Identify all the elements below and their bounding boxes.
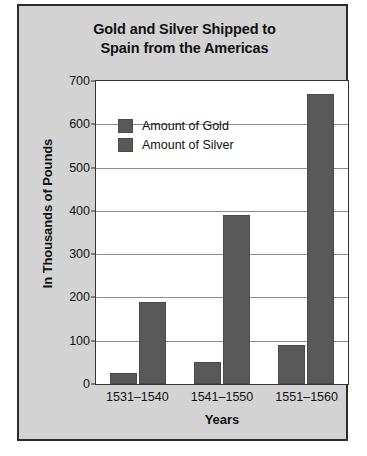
legend-label-silver: Amount of Silver	[142, 138, 234, 152]
x-axis-tick-labels: 1531–15401541–15501551–1560	[95, 390, 349, 408]
bar-group	[264, 81, 348, 384]
chart-title: Gold and Silver Shipped to Spain from th…	[49, 20, 320, 57]
bar	[194, 362, 221, 384]
legend-label-gold: Amount of Gold	[142, 119, 229, 133]
y-tick-label: 400	[69, 204, 90, 218]
bar	[278, 345, 305, 384]
y-tick-label: 600	[69, 117, 90, 131]
x-tick-label: 1531–1540	[106, 390, 169, 404]
legend-swatch-silver	[118, 138, 133, 152]
x-tick-label: 1541–1550	[191, 390, 254, 404]
legend-item-gold: Amount of Gold	[118, 119, 234, 133]
x-tick-label: 1551–1560	[275, 390, 338, 404]
y-axis-title: In Thousands of Pounds	[40, 124, 55, 304]
bar	[139, 302, 166, 384]
y-tick-label: 200	[69, 290, 90, 304]
x-axis-title: Years	[95, 412, 349, 427]
chart-panel: Gold and Silver Shipped to Spain from th…	[17, 4, 348, 441]
y-tick-label: 100	[69, 334, 90, 348]
chart-title-line-2: Spain from the Americas	[49, 39, 320, 58]
y-tick-label: 300	[69, 247, 90, 261]
chart-title-line-1: Gold and Silver Shipped to	[49, 20, 320, 39]
y-tick-label: 700	[69, 74, 90, 88]
legend: Amount of Gold Amount of Silver	[118, 119, 234, 157]
y-tick-label: 0	[83, 377, 90, 391]
bar	[307, 94, 334, 384]
bar	[223, 215, 250, 384]
plot-area: 0100200300400500600700 Amount of Gold Am…	[95, 80, 349, 385]
legend-swatch-gold	[118, 119, 133, 133]
legend-item-silver: Amount of Silver	[118, 138, 234, 152]
y-tick-label: 500	[69, 161, 90, 175]
chart-page: Gold and Silver Shipped to Spain from th…	[0, 0, 367, 456]
bar	[110, 373, 137, 384]
